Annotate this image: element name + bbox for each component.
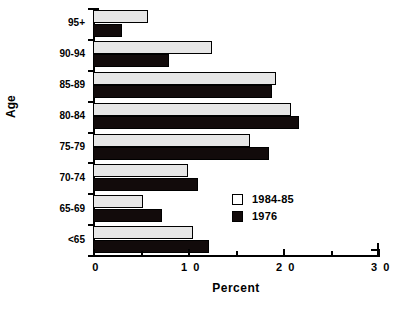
chart-legend: 1984-851976: [232, 192, 294, 226]
legend-item-1984-85: 1984-85: [232, 192, 294, 206]
bar-1984-85-7579: [93, 134, 250, 147]
y-axis-title: Age: [4, 95, 18, 118]
bar-1976-9094: [93, 54, 169, 67]
y-label-8084: 80-84: [59, 110, 85, 121]
bar-1984-85-95+: [93, 10, 148, 23]
bar-1976-6569: [93, 209, 162, 222]
legend-label-1976: 1976: [252, 210, 277, 222]
bar-1984-85-6569: [93, 195, 143, 208]
y-axis-labels: 95+90-9485-8980-8475-7970-7465-69<65: [0, 0, 85, 309]
legend-swatch-icon-1976: [232, 211, 243, 222]
x-label-2: 2 0: [276, 261, 296, 273]
bar-1976-8589: [93, 85, 272, 98]
bar-1984-85-9094: [93, 41, 212, 54]
y-label-7579: 75-79: [59, 141, 85, 152]
x-tick-2: [283, 249, 285, 257]
x-axis-title: Percent: [93, 281, 379, 295]
x-minor-tick-2: [331, 251, 333, 257]
x-tick-1: [188, 249, 190, 257]
x-label-3: 3 0: [371, 261, 391, 273]
legend-label-1984-85: 1984-85: [252, 193, 294, 205]
bar-1984-85-65: [93, 226, 193, 239]
bar-1984-85-8084: [93, 103, 291, 116]
bar-1984-85-8589: [93, 72, 276, 85]
x-label-1: 1 0: [181, 261, 201, 273]
bar-1976-7579: [93, 147, 269, 160]
bar-1984-85-7074: [93, 164, 188, 177]
bar-1976-8084: [93, 116, 299, 129]
y-label-6569: 65-69: [59, 203, 85, 214]
x-label-0: 0: [92, 261, 100, 273]
bar-1976-65: [93, 240, 209, 253]
x-tick-0: [93, 249, 95, 257]
x-minor-tick-1: [236, 251, 238, 257]
x-minor-tick-0: [141, 251, 143, 257]
y-label-65: <65: [68, 234, 85, 245]
y-label-8589: 85-89: [59, 79, 85, 90]
bar-chart-figure: 95+90-9485-8980-8475-7970-7465-69<65 01 …: [0, 0, 401, 309]
bar-1976-95+: [93, 24, 122, 37]
legend-item-1976: 1976: [232, 209, 294, 223]
y-label-7074: 70-74: [59, 172, 85, 183]
legend-swatch-icon-1984-85: [232, 194, 243, 205]
y-label-95+: 95+: [68, 17, 85, 28]
y-label-9094: 90-94: [59, 48, 85, 59]
bar-1976-7074: [93, 178, 198, 191]
x-tick-3: [378, 249, 380, 257]
